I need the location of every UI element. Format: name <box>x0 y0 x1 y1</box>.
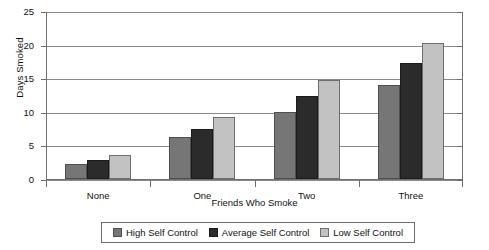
legend-label: High Self Control <box>126 227 198 238</box>
x-axis-tick-mark <box>462 180 463 187</box>
legend-label: Average Self Control <box>222 227 310 238</box>
legend-label: Low Self Control <box>333 227 403 238</box>
y-axis-tick-label: 15 <box>10 74 34 84</box>
y-axis-tick-label: 25 <box>10 7 34 17</box>
plot-right-border <box>462 12 463 180</box>
x-axis-tick-mark <box>359 180 360 187</box>
gridline <box>46 12 463 13</box>
bar <box>400 63 422 179</box>
y-axis-tick-label: 20 <box>10 41 34 51</box>
y-axis-tick-mark <box>41 146 46 147</box>
chart-legend: High Self ControlAverage Self ControlLow… <box>101 222 415 243</box>
y-axis-tick-label: 0 <box>10 175 34 185</box>
legend-item[interactable]: Average Self Control <box>209 227 310 238</box>
x-axis-tick-mark <box>255 180 256 187</box>
right-axis-tick-mark <box>457 12 463 13</box>
legend-item[interactable]: High Self Control <box>113 227 198 238</box>
bar <box>87 160 109 179</box>
x-axis-tick-mark <box>150 180 151 187</box>
bar <box>191 129 213 179</box>
legend-swatch-icon <box>209 228 218 237</box>
bar <box>422 43 444 179</box>
y-axis-tick-mark <box>41 113 46 114</box>
bar <box>318 80 340 179</box>
legend-swatch-icon <box>113 228 122 237</box>
legend-item[interactable]: Low Self Control <box>320 227 403 238</box>
legend-swatch-icon <box>320 228 329 237</box>
bar <box>378 85 400 179</box>
y-axis-tick-mark <box>41 46 46 47</box>
bar <box>169 137 191 179</box>
bar <box>65 164 87 179</box>
x-axis-title: Friends Who Smoke <box>46 197 463 208</box>
bar <box>213 117 235 179</box>
right-axis-tick-mark <box>457 113 463 114</box>
right-axis-tick-mark <box>457 79 463 80</box>
y-axis-line <box>46 12 47 180</box>
y-axis-title: Days Smoked <box>14 13 25 123</box>
bar-chart: Days Smoked 0510152025 NoneOneTwoThree F… <box>0 0 489 250</box>
y-axis-tick-label: 5 <box>10 141 34 151</box>
y-axis-tick-mark <box>41 12 46 13</box>
gridline <box>46 46 463 47</box>
bar <box>109 155 131 179</box>
y-axis-tick-mark <box>41 79 46 80</box>
x-axis-tick-mark <box>46 180 47 187</box>
right-axis-tick-mark <box>457 46 463 47</box>
bar <box>296 96 318 179</box>
bar <box>274 112 296 179</box>
y-axis-tick-label: 10 <box>10 108 34 118</box>
plot-area: NoneOneTwoThree <box>46 12 463 180</box>
right-axis-tick-mark <box>457 146 463 147</box>
